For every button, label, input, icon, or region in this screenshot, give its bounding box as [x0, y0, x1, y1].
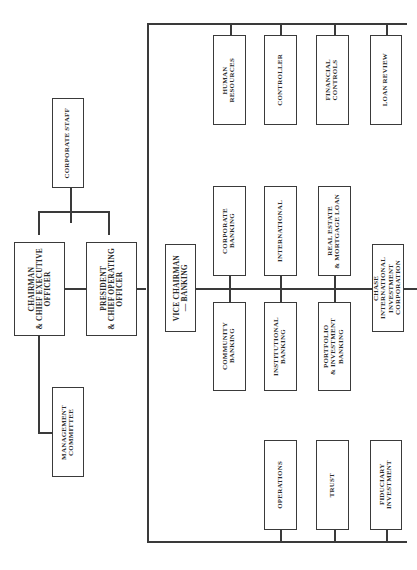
- trust-box: TRUST: [316, 440, 349, 530]
- connector: [147, 23, 407, 25]
- chase-international-label: CHASE INTERNATIONAL INVESTMENT CORPORATI…: [373, 257, 402, 319]
- fiduciary-investment-label: FIDUCIARY INVESTMENT: [379, 460, 394, 509]
- real-estate-label: REAL ESTATE & MORTGAGE LOAN: [327, 194, 342, 269]
- controller-box: CONTROLLER: [264, 35, 297, 125]
- connector: [230, 23, 232, 35]
- loan-review-label: LOAN REVIEW: [382, 53, 389, 106]
- international-box: INTERNATIONAL: [264, 186, 297, 276]
- management-committee-label: MANAGEMENT COMMITTEE: [61, 405, 76, 460]
- financial-controls-box: FINANCIAL CONTROLS: [316, 35, 349, 125]
- connector: [38, 211, 40, 235]
- chairman-label: CHAIRMAN & CHIEF EXECUTIVE OFFICER: [28, 248, 52, 329]
- loan-review-box: LOAN REVIEW: [370, 35, 402, 125]
- human-resources-label: HUMAN RESOURCES: [222, 58, 237, 103]
- connector: [70, 188, 72, 223]
- connector: [229, 275, 231, 303]
- operations-label: OPERATIONS: [277, 461, 284, 509]
- connector: [334, 275, 336, 303]
- operations-box: OPERATIONS: [264, 440, 297, 530]
- controller-label: CONTROLLER: [277, 54, 284, 106]
- connector: [38, 211, 110, 213]
- fiduciary-investment-box: FIDUCIARY INVESTMENT: [370, 440, 402, 530]
- corporate-banking-label: CORPORATE BANKING: [222, 208, 237, 254]
- connector: [108, 211, 110, 235]
- portfolio-investment-box: PORTFOLIO & INVESTMENT BANKING: [318, 302, 351, 391]
- real-estate-box: REAL ESTATE & MORTGAGE LOAN: [318, 186, 351, 276]
- institutional-banking-label: INSTITUTIONAL BANKING: [273, 317, 288, 376]
- president-box: PRESIDENT & CHIEF OPERATING OFFICER: [86, 242, 137, 336]
- connector: [147, 23, 149, 542]
- trust-label: TRUST: [329, 473, 336, 497]
- management-committee-box: MANAGEMENT COMMITTEE: [52, 387, 84, 477]
- chairman-box: CHAIRMAN & CHIEF EXECUTIVE OFFICER: [14, 242, 65, 336]
- connector: [334, 23, 336, 35]
- connector: [386, 530, 388, 542]
- connector: [334, 530, 336, 542]
- connector: [280, 530, 282, 542]
- connector: [147, 541, 407, 543]
- international-label: INTERNATIONAL: [277, 200, 284, 262]
- corporate-banking-box: CORPORATE BANKING: [213, 186, 246, 276]
- community-banking-box: COMMUNITY BANKING: [213, 302, 246, 391]
- vice-chairman-box: VICE CHAIRMAN — BANKING: [165, 244, 196, 332]
- corporate-staff-box: CORPORATE STAFF: [52, 98, 84, 188]
- connector: [386, 23, 388, 35]
- vice-chairman-label: VICE CHAIRMAN — BANKING: [173, 255, 189, 321]
- portfolio-investment-label: PORTFOLIO & INVESTMENT BANKING: [323, 318, 345, 375]
- president-label: PRESIDENT & CHIEF OPERATING OFFICER: [100, 248, 124, 330]
- financial-controls-label: FINANCIAL CONTROLS: [325, 59, 340, 100]
- chase-international-box: CHASE INTERNATIONAL INVESTMENT CORPORATI…: [372, 244, 404, 332]
- connector: [280, 23, 282, 35]
- connector: [280, 275, 282, 303]
- connector: [38, 335, 40, 433]
- institutional-banking-box: INSTITUTIONAL BANKING: [264, 302, 297, 391]
- human-resources-box: HUMAN RESOURCES: [213, 35, 246, 125]
- corporate-staff-label: CORPORATE STAFF: [64, 108, 71, 179]
- community-banking-label: COMMUNITY BANKING: [222, 322, 237, 370]
